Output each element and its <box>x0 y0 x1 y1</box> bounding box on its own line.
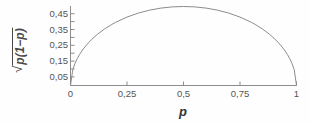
x-tick-label: 0,25 <box>118 89 137 99</box>
x-axis-tick-labels: 0 0,25 0,5 0,75 1 <box>0 0 310 124</box>
x-axis-title: p <box>179 104 187 119</box>
x-tick-label: 0 <box>68 89 73 99</box>
x-tick-label: 0,5 <box>177 89 190 99</box>
x-tick-label: 0,75 <box>231 89 250 99</box>
chart-figure: √ p(1−p) 0,45 0,35 0,25 0,15 0,05 <box>0 0 310 124</box>
x-tick-label: 1 <box>294 89 299 99</box>
